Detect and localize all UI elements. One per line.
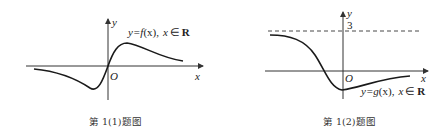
figure-canvas: y x O y=f(x),x∈R 第 1(1)题图 y 3 x O y=g(x)… <box>0 0 445 133</box>
x-axis-label: x <box>420 72 426 84</box>
function-label: y=g(x),x∈R <box>360 85 426 98</box>
x-axis-label: x <box>194 70 200 82</box>
graph-f: y x O y=f(x),x∈R 第 1(1)题图 <box>26 16 203 127</box>
origin-label: O <box>110 70 118 82</box>
function-label: y=f(x),x∈R <box>127 26 191 39</box>
curve-g <box>270 35 410 90</box>
graph-g: y 3 x O y=g(x),x∈R 第 1(2)题图 <box>265 7 428 127</box>
caption: 第 1(1)题图 <box>89 116 142 127</box>
asymptote-value-label: 3 <box>347 19 353 31</box>
origin-label: O <box>345 72 353 84</box>
y-axis-label: y <box>111 16 117 28</box>
y-axis-label: y <box>346 7 352 19</box>
caption: 第 1(2)题图 <box>323 116 376 127</box>
